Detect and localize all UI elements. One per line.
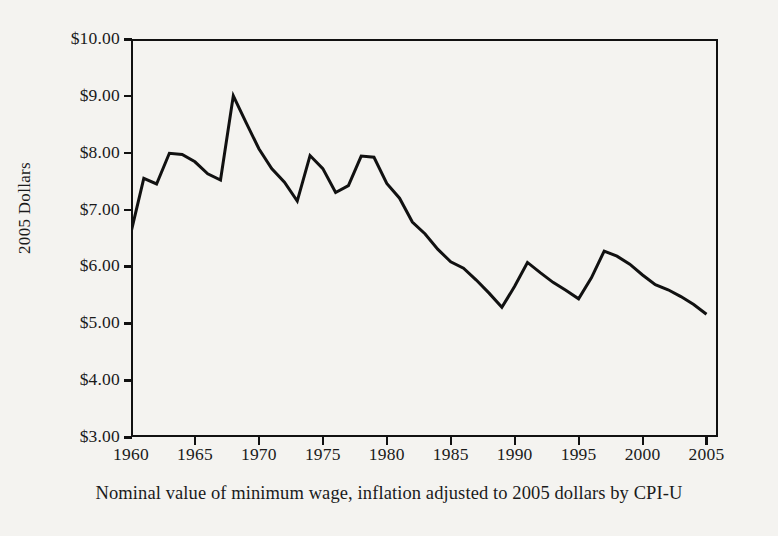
x-tick-mark [705,437,708,445]
y-tick-mark [124,379,132,382]
x-tick-mark [386,437,389,445]
x-tick-mark [258,437,261,445]
y-tick-mark [124,209,132,212]
y-tick-label: $3.00 [80,428,120,446]
x-tick-mark [194,437,197,445]
x-tick-label: 1975 [288,446,358,464]
x-tick-mark [450,437,453,445]
x-tick-label: 1970 [224,446,294,464]
y-tick-label: $10.00 [71,30,120,48]
x-tick-label: 2000 [608,446,678,464]
y-tick-label: $8.00 [80,144,120,162]
y-tick-label: $7.00 [80,201,120,219]
y-tick-mark [124,436,132,439]
x-tick-label: 1985 [416,446,486,464]
y-tick-label: $6.00 [80,257,120,275]
x-tick-mark [642,437,645,445]
y-tick-label: $4.00 [80,371,120,389]
chart-figure: 2005 Dollars $10.00$9.00$8.00$7.00$6.00$… [0,0,778,536]
x-tick-mark [578,437,581,445]
x-tick-mark [514,437,517,445]
x-tick-label: 1990 [480,446,550,464]
x-tick-label: 1995 [544,446,614,464]
x-tick-mark [322,437,325,445]
y-tick-label: $5.00 [80,314,120,332]
y-tick-mark [124,152,132,155]
y-tick-mark [124,322,132,325]
data-line [131,96,706,314]
y-tick-label: $9.00 [80,87,120,105]
x-tick-label: 1980 [352,446,422,464]
y-tick-mark [124,265,132,268]
x-tick-label: 1965 [160,446,230,464]
y-tick-mark [124,95,132,98]
x-tick-label: 1960 [96,446,166,464]
y-tick-mark [124,38,132,41]
chart-caption: Nominal value of minimum wage, inflation… [0,483,778,504]
x-tick-label: 2005 [671,446,741,464]
line-series-minimum-wage [131,39,718,437]
